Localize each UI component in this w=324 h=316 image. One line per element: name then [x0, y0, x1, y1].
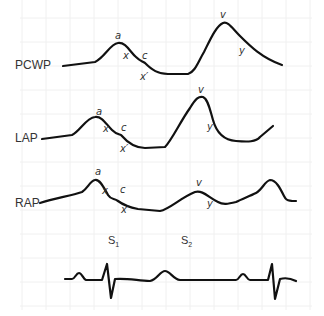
pcwp-x-prime-label: x′ [140, 71, 148, 82]
lap-y-descent-label: y [207, 121, 213, 132]
rap-label: RAP [15, 196, 40, 210]
rap-v-wave-label: v [196, 177, 202, 188]
s1-heart-sound-label: S1 [108, 234, 119, 248]
s1-subscript: 1 [115, 241, 119, 248]
s2-heart-sound-label: S2 [181, 234, 192, 248]
rap-a-wave-label: a [95, 166, 101, 177]
s2-subscript: 2 [188, 241, 192, 248]
pcwp-y-descent-label: y [239, 45, 245, 56]
pcwp-x-descent-label: x [123, 50, 129, 61]
rap-x-prime-label: x′ [121, 204, 129, 215]
background-grid [20, 0, 312, 310]
rap-y-descent-label: y [207, 198, 213, 209]
rap-x-descent-label: x [102, 185, 108, 196]
lap-x-descent-label: x [103, 123, 109, 134]
lap-c-wave-label: c [121, 122, 127, 133]
pcwp-a-wave-label: a [115, 30, 121, 41]
lap-v-wave-label: v [198, 84, 204, 95]
pcwp-v-wave-label: v [220, 9, 226, 20]
pcwp-label: PCWP [15, 58, 51, 72]
lap-label: LAP [15, 131, 38, 145]
diagram-canvas [0, 0, 324, 316]
rap-c-wave-label: c [120, 184, 126, 195]
lap-a-wave-label: a [96, 106, 102, 117]
rap-trace [40, 180, 296, 211]
pcwp-c-wave-label: c [142, 50, 148, 61]
lap-x-prime-label: x′ [120, 143, 128, 154]
